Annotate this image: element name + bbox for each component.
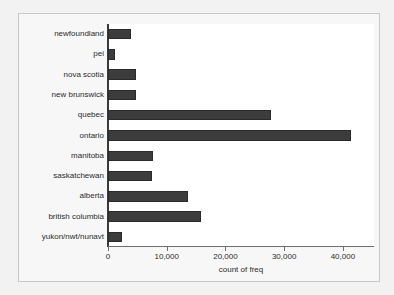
bar <box>108 49 115 60</box>
x-tick-label: 0 <box>106 252 110 261</box>
category-label-ontario: ontario <box>18 131 104 140</box>
x-tick-label: 40,000 <box>331 252 355 261</box>
x-tick-label: 30,000 <box>272 252 296 261</box>
x-tick-mark <box>108 247 109 251</box>
bar-row <box>108 49 374 60</box>
x-tick-mark <box>225 247 226 251</box>
bar <box>108 211 201 222</box>
x-tick-mark <box>167 247 168 251</box>
bar <box>108 151 153 162</box>
category-label-quebec: quebec <box>18 110 104 119</box>
bar-row <box>108 90 374 101</box>
bar <box>108 90 136 101</box>
category-label-alberta: alberta <box>18 191 104 200</box>
category-label-newfoundland: newfoundland <box>18 29 104 38</box>
bar-row <box>108 232 374 243</box>
bars-layer <box>108 24 374 247</box>
bar-row <box>108 151 374 162</box>
bar-row <box>108 171 374 182</box>
category-label-nova-scotia: nova scotia <box>18 70 104 79</box>
category-label-pei: pei <box>18 49 104 58</box>
bar <box>108 171 152 182</box>
x-axis-title: count of freq <box>108 265 374 274</box>
bar-row <box>108 211 374 222</box>
bar <box>108 29 131 40</box>
bar-row <box>108 130 374 141</box>
category-axis-labels: newfoundlandpeinova scotianew brunswickq… <box>18 24 104 247</box>
bar <box>108 130 351 141</box>
category-label-british-columbia: british columbia <box>18 212 104 221</box>
bar <box>108 110 271 121</box>
category-label-yukon-nwt-nunavt: yukon/nwt/nunavt <box>18 232 104 241</box>
bar-row <box>108 29 374 40</box>
bar-row <box>108 110 374 121</box>
category-label-new-brunswick: new brunswick <box>18 90 104 99</box>
x-tick-label: 10,000 <box>154 252 178 261</box>
chart-screenshot: newfoundlandpeinova scotianew brunswickq… <box>0 0 394 295</box>
bar <box>108 232 122 243</box>
x-tick-mark <box>284 247 285 251</box>
bar-row <box>108 69 374 80</box>
x-tick-label: 20,000 <box>213 252 237 261</box>
category-label-manitoba: manitoba <box>18 151 104 160</box>
bar <box>108 69 136 80</box>
bar <box>108 191 188 202</box>
x-tick-mark <box>343 247 344 251</box>
category-label-saskatchewan: saskatchewan <box>18 171 104 180</box>
bar-row <box>108 191 374 202</box>
